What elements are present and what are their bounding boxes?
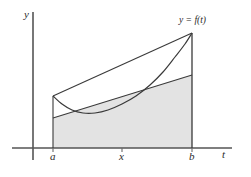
y-axis-label: y	[24, 9, 29, 20]
tick-label-b: b	[189, 151, 195, 162]
tick-label-a: a	[50, 151, 56, 162]
function-equation-label: y = f(t)	[179, 16, 206, 26]
t-axis-label: t	[222, 149, 225, 160]
figure-container: y t a x b y = f(t)	[0, 0, 251, 177]
calculus-figure-svg	[0, 0, 251, 177]
tick-label-x: x	[119, 151, 124, 162]
